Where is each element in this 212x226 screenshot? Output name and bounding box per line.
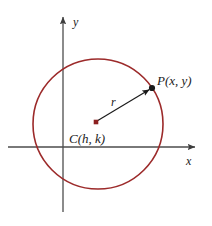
radius-label: r [111, 95, 116, 109]
point-p-marker [149, 85, 155, 91]
radius-segment [97, 90, 149, 121]
center-point-marker [94, 120, 99, 125]
diagram-canvas: P(x, y) C(h, k) r x y [0, 0, 212, 226]
point-p-label: P(x, y) [156, 73, 192, 88]
center-c-label: C(h, k) [69, 131, 105, 146]
circle-diagram-figure: P(x, y) C(h, k) r x y [0, 0, 212, 226]
x-axis-label: x [185, 154, 192, 168]
y-axis-label: y [72, 15, 79, 29]
